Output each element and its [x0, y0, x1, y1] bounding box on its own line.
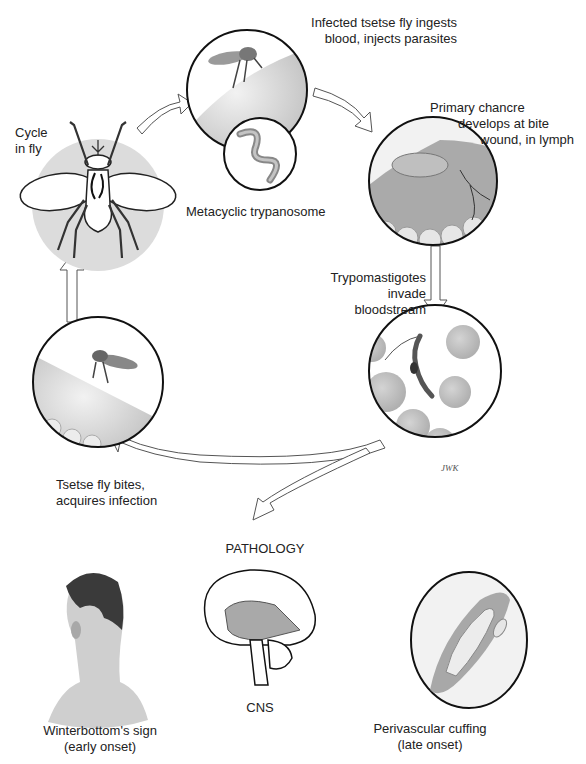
label-line: Primary chancre: [430, 100, 586, 116]
arrow-injection-to-chancre: [313, 88, 372, 132]
label-line: acquires infection: [56, 493, 157, 509]
label-perivascular: Perivascular cuffing (late onset): [350, 721, 510, 753]
label-fly-bites: Tsetse fly bites, acquires infection: [56, 477, 157, 509]
winterbottom-head-illustration: [48, 573, 148, 728]
label-line: wound, in lymph: [430, 132, 586, 148]
label-line: Cycle: [15, 125, 48, 141]
label-cns: CNS: [220, 700, 300, 716]
label-line: develops at bite: [430, 116, 586, 132]
label-line: (late onset): [350, 737, 510, 753]
heading-text: PATHOLOGY: [200, 541, 330, 557]
pathology-heading: PATHOLOGY: [200, 541, 330, 557]
fly-bites-illustration: [33, 317, 163, 460]
metacyclic-trypanosome-illustration: [224, 118, 296, 190]
label-line: Infected tsetse fly ingests: [280, 15, 457, 31]
label-line: Tsetse fly bites,: [56, 477, 157, 493]
label-line: in fly: [15, 141, 48, 157]
label-line: Trypomastigotes invade: [300, 270, 426, 302]
label-line: CNS: [220, 700, 300, 716]
artist-signature: JWK: [441, 463, 459, 473]
label-metacyclic: Metacyclic trypanosome: [186, 204, 325, 220]
label-winterbottom: Winterbottom's sign (early onset): [20, 723, 180, 755]
label-bloodstream: Trypomastigotes invade bloodstream: [300, 270, 426, 318]
label-line: Perivascular cuffing: [350, 721, 510, 737]
bloodstream-illustration: [358, 305, 501, 460]
label-line: Winterbottom's sign: [20, 723, 180, 739]
perivascular-cuffing-illustration: [411, 572, 527, 708]
label-line: blood, injects parasites: [280, 31, 457, 47]
label-chancre: Primary chancre develops at bite wound, …: [430, 100, 586, 148]
arrow-fly-to-injection: [137, 94, 192, 134]
label-line: bloodstream: [300, 302, 426, 318]
label-line: Metacyclic trypanosome: [186, 204, 325, 220]
cns-brain-illustration: [205, 570, 316, 685]
label-line: (early onset): [20, 739, 180, 755]
label-fly-injects: Infected tsetse fly ingests blood, injec…: [280, 15, 457, 47]
label-cycle-in-fly: Cycle in fly: [15, 125, 48, 157]
